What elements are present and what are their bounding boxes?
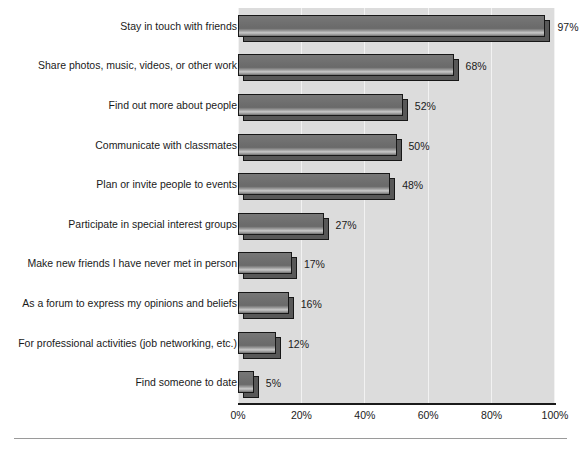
bar — [238, 15, 551, 43]
bar — [238, 252, 298, 280]
bar-body — [238, 252, 292, 274]
bar-value-label: 17% — [304, 258, 325, 270]
bar-body — [238, 332, 276, 354]
category-label: As a forum to express my opinions and be… — [22, 297, 237, 309]
category-label: Stay in touch with friends — [120, 20, 237, 32]
bar-row: Stay in touch with friends97% — [0, 15, 581, 37]
bar-body — [238, 94, 403, 116]
bar-body — [238, 134, 397, 156]
bar-row: Share photos, music, videos, or other wo… — [0, 54, 581, 76]
bar-value-label: 50% — [409, 140, 430, 152]
category-label: Communicate with classmates — [95, 139, 237, 151]
bar — [238, 332, 282, 360]
category-label: For professional activities (job network… — [18, 337, 237, 349]
bar-row: Find out more about people52% — [0, 94, 581, 116]
bar-row: Plan or invite people to events48% — [0, 173, 581, 195]
bar — [238, 292, 295, 320]
x-tick-label: 0% — [230, 409, 245, 422]
bar-value-label: 12% — [288, 338, 309, 350]
x-tick-label: 80% — [481, 409, 502, 422]
category-label: Find someone to date — [135, 376, 237, 388]
x-tick-label: 100% — [542, 409, 569, 422]
bar — [238, 134, 403, 162]
bar-body — [238, 15, 545, 37]
bar — [238, 54, 460, 82]
bar-body — [238, 371, 254, 393]
category-label: Share photos, music, videos, or other wo… — [38, 59, 237, 71]
category-label: Make new friends I have never met in per… — [27, 257, 237, 269]
bar-value-label: 52% — [415, 100, 436, 112]
bar-value-label: 68% — [466, 60, 487, 72]
bar-body — [238, 54, 454, 76]
bar-value-label: 5% — [266, 377, 281, 389]
bar-value-label: 97% — [557, 21, 578, 33]
bar-row: Make new friends I have never met in per… — [0, 252, 581, 274]
bar-row: As a forum to express my opinions and be… — [0, 292, 581, 314]
bar — [238, 213, 330, 241]
footer-divider — [14, 438, 567, 439]
bar-value-label: 48% — [402, 179, 423, 191]
category-label: Find out more about people — [109, 99, 237, 111]
bar-body — [238, 292, 289, 314]
x-tick-label: 20% — [291, 409, 312, 422]
category-label: Participate in special interest groups — [68, 218, 237, 230]
bar-row: Participate in special interest groups27… — [0, 213, 581, 235]
bar-row: Find someone to date5% — [0, 371, 581, 393]
x-tick-label: 40% — [354, 409, 375, 422]
bar-chart-figure: Stay in touch with friends97%Share photo… — [0, 0, 581, 451]
bar-value-label: 27% — [336, 219, 357, 231]
bar — [238, 94, 409, 122]
bar-body — [238, 213, 324, 235]
bar-rows: Stay in touch with friends97%Share photo… — [0, 8, 581, 404]
bar — [238, 371, 260, 399]
bar-row: For professional activities (job network… — [0, 332, 581, 354]
bar-row: Communicate with classmates50% — [0, 134, 581, 156]
bar-body — [238, 173, 390, 195]
bar-value-label: 16% — [301, 298, 322, 310]
x-tick-label: 60% — [418, 409, 439, 422]
bar — [238, 173, 396, 201]
category-label: Plan or invite people to events — [96, 178, 237, 190]
